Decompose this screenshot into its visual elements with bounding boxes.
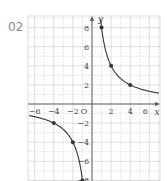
y-tick-label: −4 xyxy=(77,138,89,147)
data-point xyxy=(71,140,75,144)
y-tick-label: 4 xyxy=(84,62,89,71)
x-tick-label: 2 xyxy=(109,107,114,116)
y-tick-label: 6 xyxy=(84,43,89,52)
x-tick-label: −4 xyxy=(48,107,60,116)
x-tick-label: 4 xyxy=(128,107,133,116)
y-tick-label: −2 xyxy=(77,119,89,128)
y-tick-label: 8 xyxy=(84,24,89,33)
y-tick-label: 2 xyxy=(84,81,89,90)
origin-label: O xyxy=(81,107,88,116)
x-tick-label: −2 xyxy=(67,107,79,116)
data-point xyxy=(52,121,56,125)
grid-border xyxy=(28,16,160,181)
y-axis-arrow-icon xyxy=(90,16,94,21)
x-tick-label: −6 xyxy=(29,107,41,116)
data-point xyxy=(100,26,104,30)
x-tick-label: 6 xyxy=(143,107,148,116)
x-axis-arrow-icon xyxy=(155,102,160,106)
data-point xyxy=(109,64,113,68)
x-axis-label: x xyxy=(154,107,159,117)
data-point xyxy=(128,83,132,87)
curve-left-branch xyxy=(29,116,83,181)
graph: xyO−6−4−22468642−2−4−6−8 xyxy=(0,0,167,181)
